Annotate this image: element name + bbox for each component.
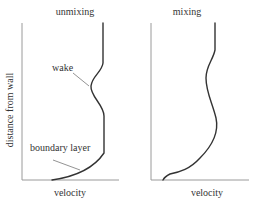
panel-mixing: mixing velocity — [151, 6, 249, 198]
y-axis-label: distance from wall — [4, 73, 15, 148]
annotation-boundary-layer: boundary layer — [30, 142, 91, 153]
x-axis-label-left: velocity — [54, 187, 86, 198]
velocity-profile-mixing — [163, 23, 217, 180]
velocity-profile-diagram: distance from wall unmixing wake boundar… — [0, 0, 259, 206]
velocity-profile-unmixing — [52, 23, 104, 180]
x-axis-label-right: velocity — [191, 187, 223, 198]
boundary-layer-pointer-line — [53, 160, 80, 170]
panel-title-unmixing: unmixing — [56, 6, 94, 17]
panel-unmixing: unmixing wake boundary layer velocity — [22, 6, 119, 198]
annotation-wake: wake — [52, 62, 74, 73]
wake-pointer-line — [73, 73, 89, 86]
panel-title-mixing: mixing — [173, 6, 201, 17]
